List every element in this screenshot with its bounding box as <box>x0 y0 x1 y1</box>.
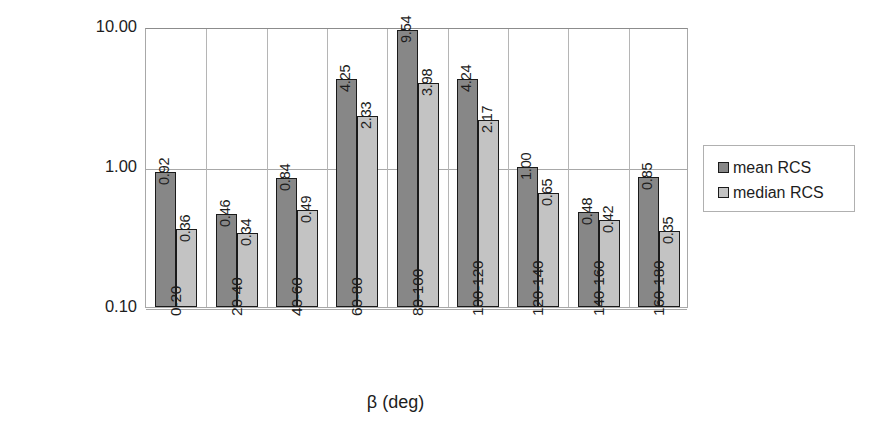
x-axis-tick-label: 60-80 <box>348 277 366 316</box>
legend-label: median RCS <box>733 184 824 202</box>
legend-item: mean RCS <box>718 155 854 180</box>
legend-item: median RCS <box>718 180 854 205</box>
x-axis-tick-label: 0-20 <box>167 286 185 316</box>
chart-legend: mean RCSmedian RCS <box>703 145 855 212</box>
x-axis-tick-label: 140-160 <box>590 261 608 316</box>
x-axis-tick-label: 40-60 <box>288 277 306 316</box>
legend-swatch-median <box>718 187 729 198</box>
x-axis-title-text: β (deg) <box>367 392 424 412</box>
chart-figure: RCS (m2) 10.001.000.10 0.920.360.460.340… <box>0 0 887 428</box>
x-axis-tick-label: 80-100 <box>409 269 427 316</box>
x-axis-tick-label: 100-120 <box>469 261 487 316</box>
x-axis-tick-labels: 0-2020-4040-6060-8080-100100-120120-1401… <box>0 0 887 428</box>
x-axis-tick-label: 160-180 <box>650 261 668 316</box>
x-axis-title: β (deg) <box>0 392 887 413</box>
legend-swatch-mean <box>718 162 729 173</box>
x-axis-tick-label: 20-40 <box>228 277 246 316</box>
x-axis-tick-label: 120-140 <box>529 261 547 316</box>
legend-label: mean RCS <box>733 159 811 177</box>
